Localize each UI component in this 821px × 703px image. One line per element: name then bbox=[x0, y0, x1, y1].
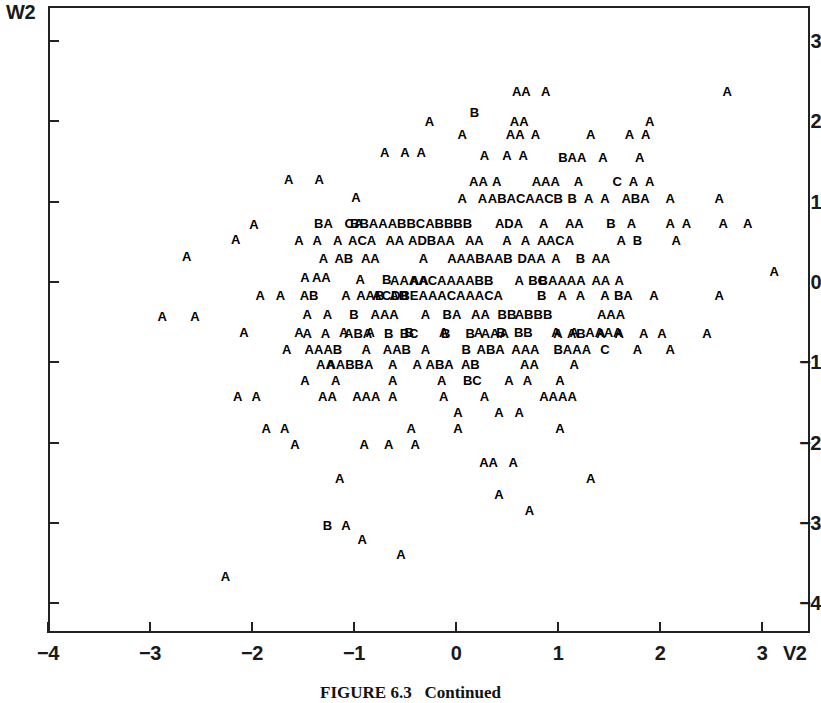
x-tick-label: 1 bbox=[528, 643, 588, 663]
data-point-glyph: A bbox=[629, 174, 638, 187]
data-point-glyph: A bbox=[421, 343, 430, 356]
data-point-glyph: A bbox=[480, 390, 489, 403]
data-point-glyph: A bbox=[313, 234, 322, 247]
y-tick-label: 1 bbox=[781, 192, 821, 212]
data-point-glyph: A bbox=[357, 533, 366, 546]
data-point-glyph: A bbox=[657, 327, 666, 340]
x-tick-label: 0 bbox=[426, 643, 486, 663]
data-point-glyph: A bbox=[625, 128, 634, 141]
y-tick-mark bbox=[48, 522, 59, 524]
data-point-glyph: A bbox=[249, 218, 258, 231]
data-point-glyph: A bbox=[457, 128, 466, 141]
data-point-glyph: BB bbox=[514, 325, 533, 338]
data-point-glyph: BC bbox=[463, 374, 482, 387]
data-point-glyph: A bbox=[300, 374, 309, 387]
data-point-glyph: AAAB bbox=[305, 343, 343, 356]
data-point-glyph: C bbox=[612, 174, 621, 187]
data-point-glyph: A bbox=[598, 150, 607, 163]
x-tick-label: 2 bbox=[630, 643, 690, 663]
data-point-glyph: A bbox=[190, 309, 199, 322]
data-point-glyph: BC bbox=[400, 327, 419, 340]
data-point-glyph: B bbox=[349, 308, 358, 321]
data-point-glyph: A bbox=[600, 288, 609, 301]
data-point-glyph: A bbox=[502, 149, 511, 162]
data-point-glyph: A bbox=[239, 325, 248, 338]
data-point-glyph: A bbox=[439, 390, 448, 403]
data-point-glyph: AA bbox=[565, 216, 584, 229]
data-point-glyph: A bbox=[457, 192, 466, 205]
data-point-glyph: A bbox=[282, 343, 291, 356]
data-point-glyph: A bbox=[341, 518, 350, 531]
data-point-glyph: A bbox=[665, 216, 674, 229]
y-tick-label: −2 bbox=[781, 433, 821, 453]
data-point-glyph: AA bbox=[506, 128, 525, 141]
data-point-glyph: A bbox=[665, 343, 674, 356]
data-point-glyph: B bbox=[466, 327, 475, 340]
data-point-glyph: A bbox=[541, 84, 550, 97]
data-point-glyph: A bbox=[494, 406, 503, 419]
data-point-glyph: AA bbox=[361, 251, 380, 264]
y-tick-mark bbox=[48, 442, 59, 444]
data-point-glyph: AAA bbox=[481, 327, 509, 340]
data-point-glyph: A bbox=[614, 274, 623, 287]
data-point-glyph: BA bbox=[614, 288, 633, 301]
data-point-glyph: A bbox=[290, 438, 299, 451]
data-point-glyph: B bbox=[470, 105, 479, 118]
data-point-glyph: A bbox=[302, 308, 311, 321]
data-point-glyph: A bbox=[425, 115, 434, 128]
x-tick-mark bbox=[149, 622, 151, 633]
data-point-glyph: A bbox=[723, 84, 732, 97]
data-point-glyph: A bbox=[380, 145, 389, 158]
data-point-glyph: A bbox=[702, 327, 711, 340]
data-point-glyph: A bbox=[515, 274, 524, 287]
x-tick-label: −4 bbox=[18, 643, 78, 663]
data-point-glyph: A bbox=[617, 234, 626, 247]
data-point-glyph: BB bbox=[498, 308, 517, 321]
data-point-glyph: A bbox=[627, 216, 636, 229]
data-point-glyph: B bbox=[323, 518, 332, 531]
data-point-glyph: A bbox=[417, 145, 426, 158]
data-point-glyph: A bbox=[635, 150, 644, 163]
data-point-glyph: A bbox=[743, 216, 752, 229]
data-point-glyph: A bbox=[719, 216, 728, 229]
y-tick-mark bbox=[48, 120, 59, 122]
data-point-glyph: AA bbox=[471, 308, 490, 321]
plot-frame: AAAABAAAAAAAAAAAAAAAAABAAAAAAAAAAAAACAAA… bbox=[48, 6, 810, 633]
x-tick-mark bbox=[557, 622, 559, 633]
data-point-glyph: BAA bbox=[558, 150, 586, 163]
data-point-glyph: A bbox=[614, 327, 623, 340]
data-point-glyph: BA bbox=[314, 216, 333, 229]
data-point-glyph: A bbox=[396, 547, 405, 560]
data-point-glyph: A bbox=[262, 422, 271, 435]
data-point-glyph: BA bbox=[443, 308, 462, 321]
data-point-glyph: A bbox=[437, 374, 446, 387]
data-point-glyph: A bbox=[453, 406, 462, 419]
data-point-glyph: A bbox=[682, 216, 691, 229]
data-point-glyph: AA bbox=[469, 174, 488, 187]
data-point-glyph: A bbox=[492, 174, 501, 187]
data-point-glyph: A bbox=[276, 288, 285, 301]
data-point-glyph: A bbox=[641, 128, 650, 141]
data-point-glyph: A bbox=[315, 173, 324, 186]
data-point-glyph: A bbox=[570, 357, 579, 370]
data-point-glyph: A bbox=[333, 234, 342, 247]
data-point-glyph: A bbox=[502, 234, 511, 247]
data-point-glyph: A bbox=[419, 251, 428, 264]
y-tick-mark bbox=[48, 281, 59, 283]
data-point-glyph: BBAAABBCABBBB bbox=[350, 216, 472, 229]
data-point-glyph: AA bbox=[385, 234, 404, 247]
data-point-glyph: A bbox=[523, 374, 532, 387]
data-point-glyph: A bbox=[400, 145, 409, 158]
data-point-glyph: ABA bbox=[426, 357, 454, 370]
data-point-glyph: AA bbox=[512, 84, 531, 97]
data-point-glyph: A bbox=[586, 128, 595, 141]
data-point-glyph: AAB bbox=[383, 343, 411, 356]
data-point-glyph: AA bbox=[591, 274, 610, 287]
data-point-glyph: A bbox=[300, 271, 309, 284]
data-point-glyph: C bbox=[600, 343, 609, 356]
data-point-glyph: ABA bbox=[621, 192, 649, 205]
data-point-glyph: AABBA bbox=[326, 357, 373, 370]
data-point-glyph: A bbox=[280, 422, 289, 435]
data-point-glyph: A bbox=[596, 327, 605, 340]
data-point-glyph: A bbox=[553, 327, 562, 340]
